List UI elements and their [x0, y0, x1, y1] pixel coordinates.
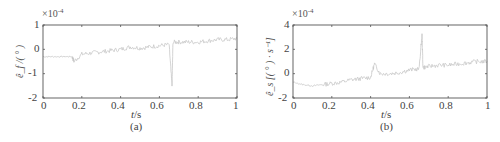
x-tick-b-3: 0.6 — [400, 99, 414, 111]
y-axis-label-a: ê_f /( ° ) — [14, 45, 25, 78]
chart-panel-a: ×10-4 ê_f /( ° ) 1 0 -1 -2 0 0.2 0.4 0.6… — [0, 0, 250, 142]
x-tick-a-2: 0.4 — [111, 99, 125, 111]
x-axis-label-b: t/s — [381, 108, 391, 120]
data-series-line — [43, 37, 237, 86]
x-tick-a-5: 1 — [233, 99, 239, 111]
y-tick-a-3: -2 — [28, 91, 37, 103]
y-tick-b-3: -2 — [278, 91, 287, 103]
x-tick-b-0: 0 — [291, 99, 297, 111]
panel-caption-a: (a) — [130, 120, 142, 132]
chart-panel-b: ×10-4 ê_s [( ° ) · s⁻¹] 4 2 0 -2 0 0.2 0… — [250, 0, 500, 142]
x-tick-b-4: 0.8 — [439, 99, 453, 111]
x-tick-b-5: 1 — [485, 99, 491, 111]
x-tick-a-1: 0.2 — [72, 99, 86, 111]
x-tick-b-1: 0.2 — [322, 99, 336, 111]
panel-caption-b: (b) — [380, 120, 393, 132]
y-axis-label-b: ê_s [( ° ) · s⁻¹] — [264, 37, 275, 96]
axes-frame — [43, 25, 237, 98]
y-tick-a-0: 1 — [34, 18, 40, 30]
x-tick-a-3: 0.6 — [150, 99, 164, 111]
data-series-line — [293, 34, 487, 87]
y-tick-a-1: 0 — [34, 42, 40, 54]
y-tick-a-2: -1 — [28, 66, 37, 78]
y-exponent-a: ×10-4 — [42, 7, 63, 19]
x-tick-a-4: 0.8 — [189, 99, 203, 111]
y-tick-b-2: 0 — [284, 66, 290, 78]
x-tick-b-2: 0.4 — [361, 99, 375, 111]
x-axis-label-a: t/s — [131, 108, 141, 120]
y-exponent-b: ×10-4 — [292, 7, 313, 19]
x-tick-a-0: 0 — [41, 99, 47, 111]
y-tick-b-0: 4 — [284, 18, 290, 30]
y-tick-b-1: 2 — [284, 42, 290, 54]
